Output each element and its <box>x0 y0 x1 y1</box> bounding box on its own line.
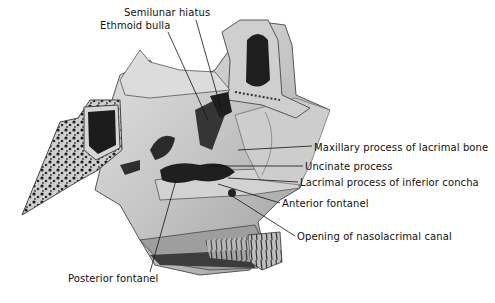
ethmoid-crest <box>120 50 230 98</box>
label-maxillary-process-lacrimal: Maxillary process of lacrimal bone <box>314 142 488 153</box>
label-ethmoid-bulla: Ethmoid bulla <box>100 20 170 31</box>
label-semilunar-hiatus: Semilunar hiatus <box>124 7 210 18</box>
label-lacrimal-process-inferior-concha: Lacrimal process of inferior concha <box>300 177 479 188</box>
label-anterior-fontanel: Anterior fontanel <box>282 198 369 209</box>
label-uncinate-process: Uncinate process <box>305 161 393 172</box>
label-posterior-fontanel: Posterior fontanel <box>68 273 158 284</box>
label-opening-nasolacrimal-canal: Opening of nasolacrimal canal <box>297 231 452 242</box>
